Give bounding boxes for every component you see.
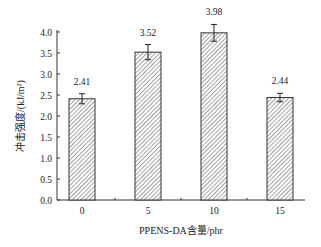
y-tick-label: 3.0 — [40, 70, 52, 80]
bar-5 — [135, 52, 161, 200]
y-tick-label: 0.0 — [40, 196, 52, 206]
y-tick-label: 1.0 — [40, 154, 52, 164]
y-tick-label: 3.5 — [40, 49, 52, 59]
y-tick-label: 1.5 — [40, 133, 52, 143]
x-tick-label: 10 — [209, 206, 219, 216]
y-tick-label: 2.5 — [40, 91, 52, 101]
data-label: 3.98 — [206, 7, 223, 17]
x-tick-label: 5 — [146, 206, 151, 216]
y-tick-label: 0.5 — [40, 175, 52, 185]
bar-0 — [69, 99, 95, 200]
bar-10 — [201, 33, 227, 200]
y-axis-label: 冲击强度/(kJ/m²) — [14, 80, 27, 152]
data-label: 2.41 — [74, 77, 91, 87]
y-tick-label: 2.0 — [40, 112, 52, 122]
impact-strength-bar-chart: 0.00.51.01.52.02.53.03.54.0051015 2.413.… — [0, 0, 321, 247]
x-tick-label: 0 — [80, 206, 85, 216]
bar-15 — [267, 98, 293, 200]
y-tick-label: 4.0 — [40, 28, 52, 38]
data-label: 2.44 — [272, 76, 289, 86]
data-label: 3.52 — [140, 28, 157, 38]
x-axis-label: PPENS-DA含量/phr — [139, 224, 224, 236]
x-tick-label: 15 — [275, 206, 285, 216]
bars: 2.413.523.982.44 — [69, 7, 293, 200]
